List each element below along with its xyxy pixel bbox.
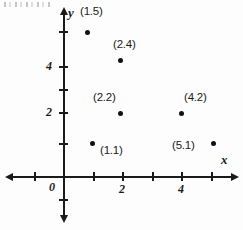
data-point-4-2	[179, 111, 184, 116]
scatter-plot-figure: x y 0 2 4 2 4 (1.5) (2.4) (2.2) (4.2) (1…	[0, 0, 243, 230]
origin-label: 0	[49, 180, 55, 195]
data-point-5-1	[211, 141, 216, 146]
x-tick-4	[181, 172, 183, 181]
y-tick-4	[59, 66, 68, 68]
data-point-label-2-2: (2.2)	[93, 91, 116, 103]
y-axis-line	[63, 14, 65, 218]
y-tick-1	[59, 143, 68, 145]
data-point-label-5-1: (5.1)	[172, 139, 195, 151]
data-point-2-2	[118, 111, 123, 116]
x-tick-3	[152, 172, 154, 181]
x-tick-2	[122, 172, 124, 181]
x-tick-5	[211, 172, 213, 181]
y-tick-2	[59, 112, 68, 114]
data-point-2-4	[118, 58, 123, 63]
data-point-label-4-2: (4.2)	[184, 91, 207, 103]
y-tick-3	[59, 89, 68, 91]
data-point-label-1-1: (1.1)	[100, 144, 123, 156]
x-axis-label: x	[221, 152, 228, 168]
data-point-1-5	[85, 30, 90, 35]
x-tick-label-2: 2	[119, 182, 125, 197]
y-axis-arrow-up-icon	[60, 7, 68, 15]
data-point-label-1-5: (1.5)	[80, 5, 103, 17]
y-tick-5	[59, 31, 68, 33]
data-point-1-1	[90, 141, 95, 146]
x-axis-arrow-right-icon	[231, 173, 239, 181]
coordinate-plane: x y 0 2 4 2 4 (1.5) (2.4) (2.2) (4.2) (1…	[0, 0, 243, 230]
y-tick--1	[59, 199, 68, 201]
x-tick--1	[34, 172, 36, 181]
x-tick-1	[93, 172, 95, 181]
x-axis-arrow-left-icon	[5, 173, 13, 181]
x-tick-label-4: 4	[178, 182, 184, 197]
y-tick-label-2: 2	[46, 105, 52, 120]
y-axis-arrow-down-icon	[60, 215, 68, 223]
y-axis-label: y	[68, 5, 74, 21]
data-point-label-2-4: (2.4)	[113, 38, 136, 50]
y-tick-label-4: 4	[46, 59, 52, 74]
